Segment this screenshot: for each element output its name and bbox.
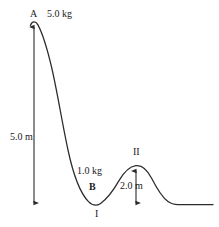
- label-point-b: B: [89, 182, 96, 192]
- track-curve: [31, 22, 214, 205]
- label-height-a: 5.0 m: [10, 132, 33, 142]
- label-hill-one: I: [95, 209, 98, 219]
- label-point-a: A: [30, 9, 37, 19]
- label-height-hill-two: 2.0 m: [120, 181, 143, 191]
- track-graphic: [0, 0, 219, 227]
- label-mass-a: 5.0 kg: [47, 9, 72, 19]
- physics-track-diagram: A 5.0 kg 5.0 m 1.0 kg B I II 2.0 m: [0, 0, 219, 227]
- label-hill-two: II: [133, 147, 140, 157]
- label-mass-b: 1.0 kg: [77, 166, 102, 176]
